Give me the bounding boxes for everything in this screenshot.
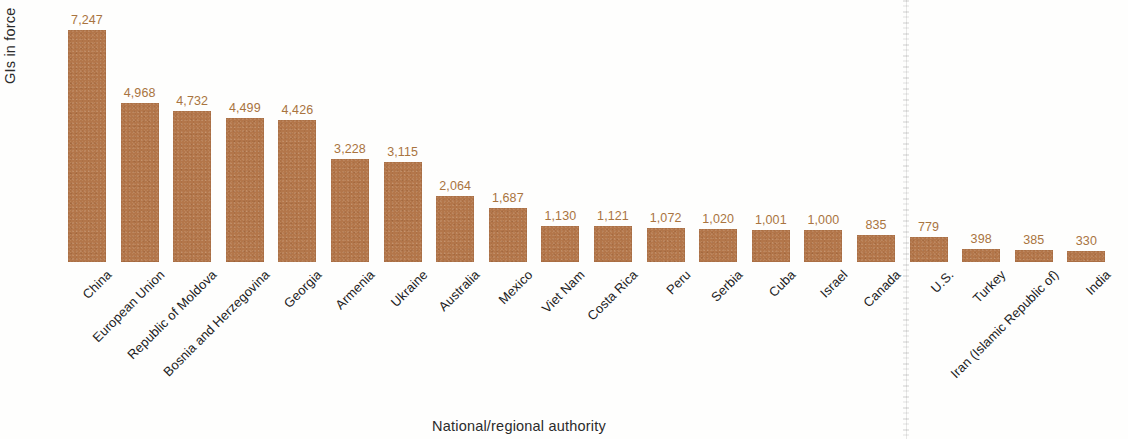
bar (699, 229, 737, 262)
bar (752, 230, 790, 262)
bar (1067, 251, 1105, 262)
bar (436, 196, 474, 262)
x-tick-label: Australia (436, 267, 483, 314)
bar (857, 235, 895, 262)
x-tick-label: Ukraine (387, 267, 430, 310)
x-tick-label: Republic of Moldova (125, 267, 220, 362)
x-tick-label: Mexico (495, 267, 535, 307)
x-tick-label: U.S. (927, 267, 956, 296)
x-tick-label: Peru (663, 267, 693, 297)
bar (384, 162, 422, 262)
x-tick-label: Costa Rica (584, 267, 640, 323)
bar (1015, 250, 1053, 262)
bar (331, 159, 369, 262)
bar (226, 118, 264, 262)
bar (594, 226, 632, 262)
bar (647, 228, 685, 262)
bar (804, 230, 842, 262)
bar (962, 249, 1000, 262)
bar (278, 120, 316, 262)
x-tick-label: Armenia (332, 267, 377, 312)
x-tick-label: Israel (817, 267, 851, 301)
x-tick-label: Cuba (766, 267, 799, 300)
x-tick-label: Iran (Islamic Republic of) (947, 267, 1061, 381)
plot-area: 7,247China4,968European Union4,732Republ… (0, 0, 1128, 439)
bar-value-label: 1,687 (475, 191, 541, 205)
bar (121, 103, 159, 262)
x-tick-label: Georgia (281, 267, 325, 311)
bar (910, 237, 948, 262)
x-tick-label: Viet Nam (539, 267, 588, 316)
bar-value-label: 7,247 (54, 13, 120, 27)
x-tick-label: Turkey (970, 267, 1009, 306)
bar-value-label: 4,426 (264, 103, 330, 117)
x-axis-title: National/regional authority (0, 418, 1038, 434)
x-tick-label: China (80, 267, 115, 302)
bar (489, 208, 527, 262)
x-tick-label: Bosnia and Herzegovina (160, 267, 272, 379)
bar-value-label: 3,115 (370, 145, 436, 159)
x-tick-label: India (1083, 267, 1114, 298)
x-tick-label: Canada (860, 267, 903, 310)
bar (68, 30, 106, 262)
bar-chart: GIs in force 7,247China4,968European Uni… (0, 0, 1128, 439)
x-tick-label: Serbia (708, 267, 746, 305)
bar-value-label: 330 (1053, 234, 1119, 248)
bar (541, 226, 579, 262)
bar (173, 111, 211, 262)
